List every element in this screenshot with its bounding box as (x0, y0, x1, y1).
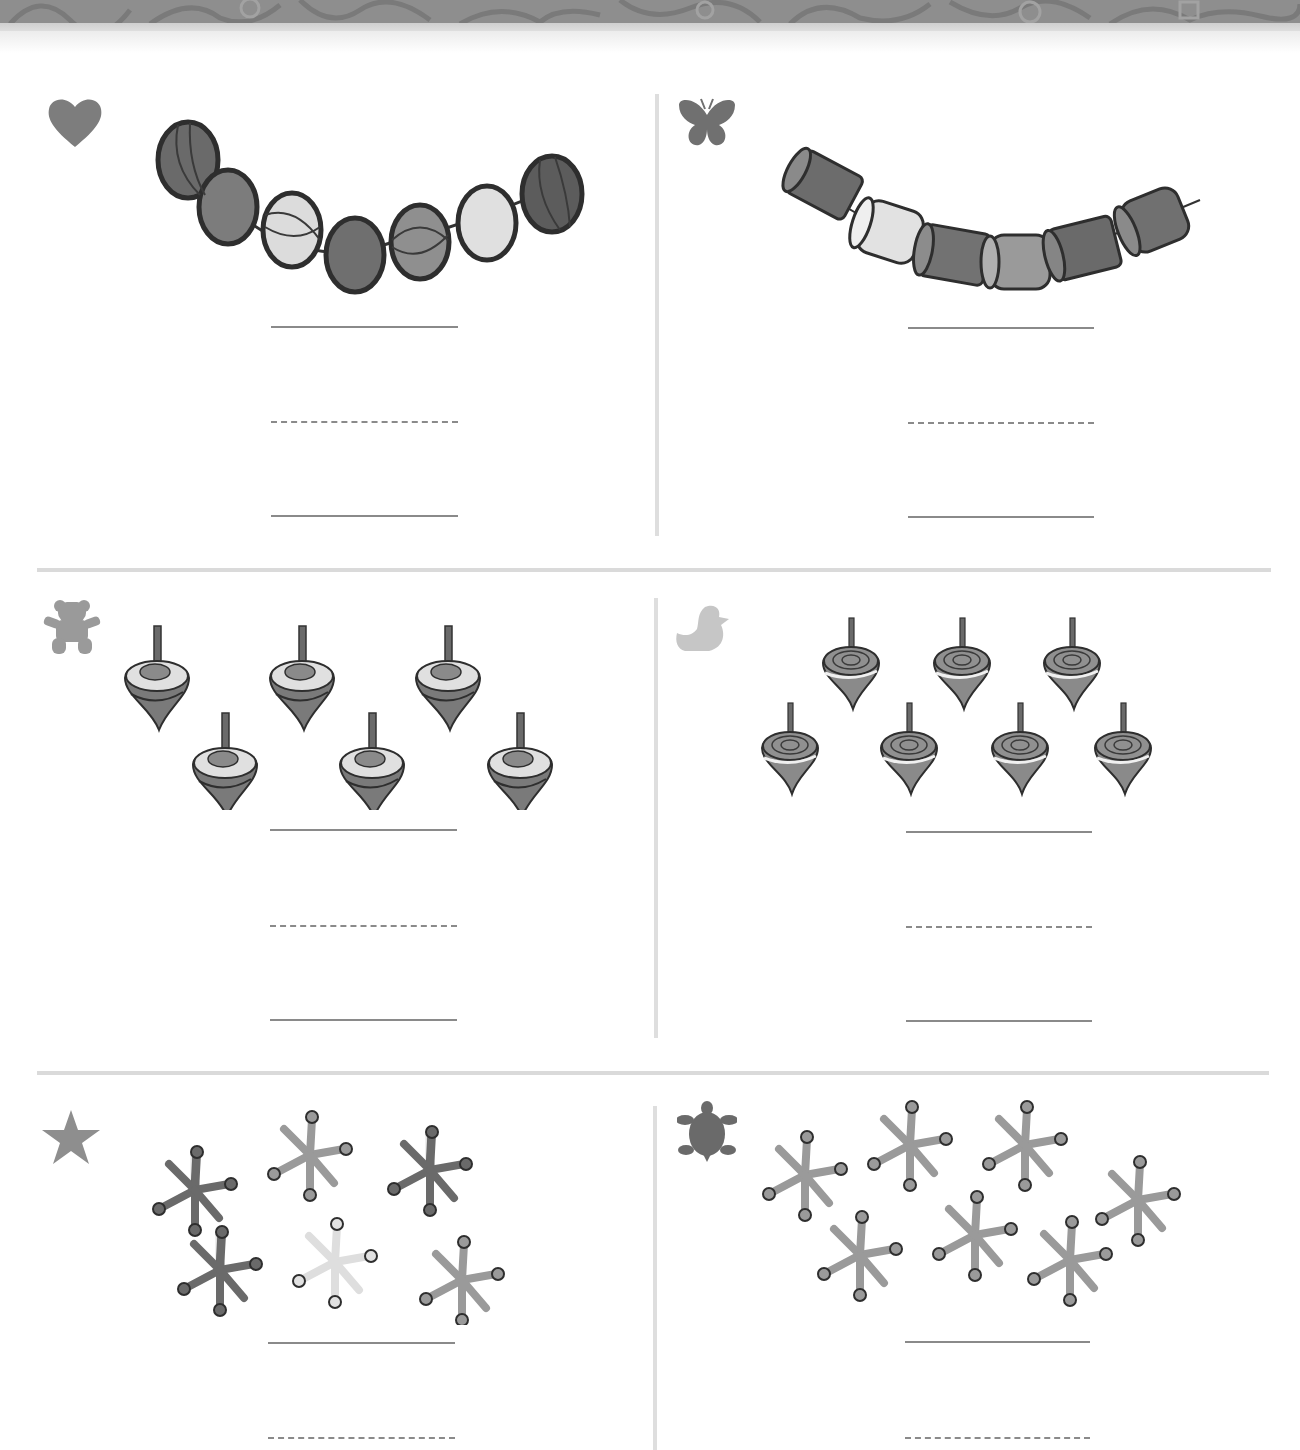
spinning-top (823, 618, 879, 709)
bead (326, 218, 384, 292)
answer-line-dashed[interactable] (908, 422, 1094, 424)
answer-line-solid[interactable] (908, 327, 1094, 329)
answer-line-solid[interactable] (908, 516, 1094, 518)
spinning-tops-illustration (115, 600, 575, 810)
spinning-top (193, 713, 257, 810)
barrel-bead (1109, 184, 1193, 260)
jack (1096, 1156, 1180, 1246)
spinning-top (270, 626, 334, 730)
spinning-top (1044, 618, 1100, 709)
barrel-bead (981, 235, 1050, 289)
column-divider (655, 94, 659, 536)
header-rule (0, 23, 1300, 31)
star-icon (40, 1108, 102, 1166)
bead (522, 156, 582, 232)
heart-icon (45, 95, 105, 150)
barrel-beads-illustration (770, 140, 1230, 300)
column-divider (654, 598, 658, 1038)
jack (388, 1126, 472, 1216)
round-beads-illustration (150, 115, 600, 295)
butterfly-icon (675, 95, 740, 150)
spinning-top (881, 703, 937, 794)
spinning-top (934, 618, 990, 709)
spinning-top (992, 703, 1048, 794)
jack (933, 1191, 1017, 1281)
jacks-illustration (745, 1090, 1215, 1325)
spinning-top (1095, 703, 1151, 794)
header-pattern-band (0, 0, 1300, 24)
answer-line-solid[interactable] (906, 831, 1092, 833)
column-divider (653, 1106, 657, 1450)
swirl-pattern (0, 0, 1300, 24)
bead (199, 170, 257, 244)
spinning-tops-illustration (740, 598, 1220, 798)
spinning-top (340, 713, 404, 810)
spinning-top (125, 626, 189, 730)
jack (293, 1218, 377, 1308)
jacks-illustration (140, 1100, 540, 1325)
barrel-bead (1039, 215, 1122, 283)
answer-line-dashed[interactable] (905, 1437, 1090, 1439)
row-divider (37, 1071, 1269, 1075)
jack (1028, 1216, 1112, 1306)
spinning-top (416, 626, 480, 730)
answer-line-solid[interactable] (270, 1019, 457, 1021)
answer-line-solid[interactable] (268, 1342, 455, 1344)
answer-line-solid[interactable] (905, 1341, 1090, 1343)
turtle-icon (677, 1100, 737, 1162)
answer-line-solid[interactable] (271, 515, 458, 517)
jack (818, 1211, 902, 1301)
answer-line-solid[interactable] (270, 829, 457, 831)
header-fade (0, 31, 1300, 53)
teddy-bear-icon (42, 598, 102, 658)
jack (420, 1236, 504, 1325)
row-divider (37, 568, 1271, 572)
answer-line-dashed[interactable] (906, 926, 1092, 928)
jack (178, 1226, 262, 1316)
answer-line-solid[interactable] (271, 326, 458, 328)
jack (268, 1111, 352, 1201)
barrel-bead (910, 222, 991, 286)
jack (868, 1101, 952, 1191)
jack (153, 1146, 237, 1236)
answer-line-dashed[interactable] (271, 421, 458, 423)
jack (763, 1131, 847, 1221)
bead (458, 186, 516, 260)
answer-line-dashed[interactable] (270, 925, 457, 927)
answer-line-dashed[interactable] (268, 1437, 455, 1439)
duck-icon (675, 603, 737, 655)
jack (983, 1101, 1067, 1191)
answer-line-solid[interactable] (906, 1020, 1092, 1022)
spinning-top (488, 713, 552, 810)
spinning-top (762, 703, 818, 794)
